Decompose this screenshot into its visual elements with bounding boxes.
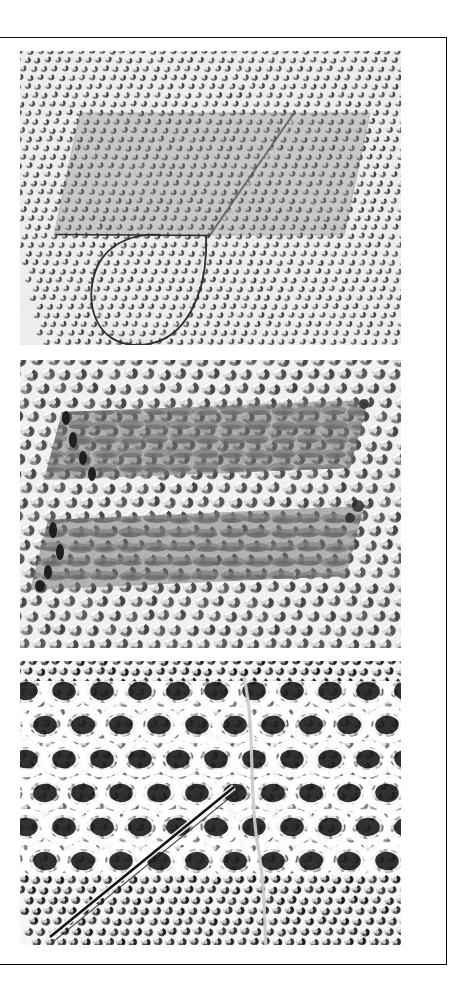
micrograph-panel-a: [20, 51, 401, 345]
panel-b-image: [20, 360, 401, 648]
panel-a-lattice: [20, 51, 401, 345]
figure-page: [0, 0, 451, 1005]
panel-b-lattice: [20, 360, 401, 648]
panel-c-image: [20, 661, 401, 945]
panel-a-image: [20, 51, 401, 345]
micrograph-panel-stack: [20, 51, 401, 945]
micrograph-panel-b: [20, 360, 401, 648]
panel-c-lattice: [20, 661, 401, 945]
micrograph-panel-c: [20, 661, 401, 945]
